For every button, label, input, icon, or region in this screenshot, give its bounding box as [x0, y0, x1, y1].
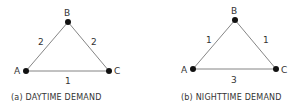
node-a [190, 66, 196, 72]
edge-ac-weight: 1 [65, 76, 71, 86]
edge-bc-weight: 2 [91, 37, 97, 47]
demand-diagrams: B A C 2 2 1 (a) DAYTIME DEMAND B A C 1 1… [0, 0, 296, 108]
edge-ab-weight: 2 [38, 37, 44, 47]
node-b-label: B [231, 6, 237, 16]
node-c-label: C [114, 66, 120, 76]
edge-bc [235, 20, 276, 69]
node-c [273, 66, 279, 72]
edge-ab-weight: 1 [206, 35, 212, 45]
edge-ab [26, 22, 68, 71]
edge-bc-weight: 1 [263, 35, 269, 45]
node-b [232, 17, 238, 23]
caption-nighttime: (b) NIGHTTIME DEMAND [181, 93, 282, 102]
edge-bc [68, 22, 109, 71]
node-a-label: A [181, 65, 188, 75]
daytime-demand-graph: B A C 2 2 1 (a) DAYTIME DEMAND [11, 8, 120, 102]
node-b [65, 19, 71, 25]
node-a [23, 68, 29, 74]
nighttime-demand-graph: B A C 1 1 3 (b) NIGHTTIME DEMAND [181, 6, 287, 102]
caption-daytime: (a) DAYTIME DEMAND [11, 93, 102, 102]
node-c-label: C [281, 65, 287, 75]
node-b-label: B [64, 8, 70, 18]
node-a-label: A [14, 66, 21, 76]
node-c [106, 68, 112, 74]
edge-ab [193, 20, 235, 69]
edge-ac-weight: 3 [231, 75, 237, 85]
